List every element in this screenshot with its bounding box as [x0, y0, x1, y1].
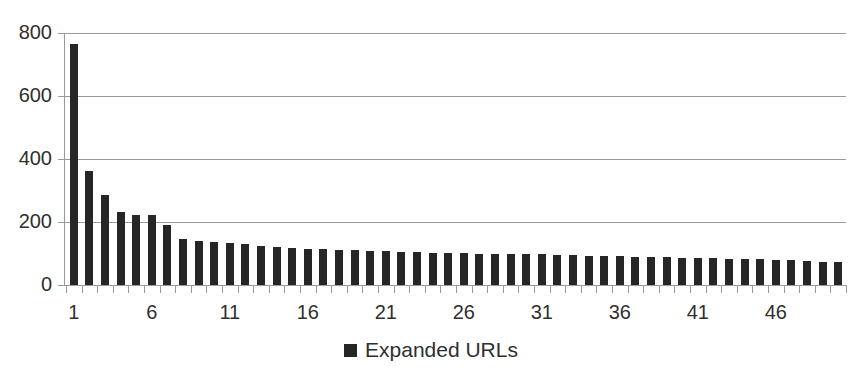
x-tick-mark — [690, 285, 691, 293]
bar — [709, 258, 717, 285]
bar — [553, 255, 561, 285]
bar — [772, 260, 780, 285]
plot-area — [66, 33, 846, 285]
bar — [273, 247, 281, 285]
x-tick-mark — [737, 285, 738, 293]
bar — [226, 243, 234, 285]
bar — [678, 258, 686, 285]
x-tick-mark — [550, 285, 551, 293]
bar — [163, 225, 171, 285]
bar — [663, 257, 671, 285]
bar — [351, 250, 359, 285]
bar — [288, 248, 296, 285]
x-tick-mark — [222, 285, 223, 293]
bar — [647, 257, 655, 285]
bar — [117, 212, 125, 285]
bar — [475, 254, 483, 286]
x-tick-mark — [347, 285, 348, 293]
y-tick-label: 600 — [0, 85, 52, 105]
y-tick-label: 0 — [0, 274, 52, 294]
y-tick-mark — [58, 96, 66, 97]
x-tick-mark — [440, 285, 441, 293]
x-tick-mark — [456, 285, 457, 293]
bar — [413, 252, 421, 285]
x-tick-mark — [768, 285, 769, 293]
x-tick-mark — [752, 285, 753, 293]
bar — [148, 215, 156, 285]
bar-chart: 0200400600800 161116212631364146 Expande… — [0, 0, 862, 376]
bar — [85, 171, 93, 285]
bar — [538, 254, 546, 285]
bar — [834, 262, 842, 285]
x-tick-mark — [503, 285, 504, 293]
x-tick-mark — [394, 285, 395, 293]
x-tick-mark — [362, 285, 363, 293]
x-tick-label: 11 — [219, 300, 240, 324]
x-tick-mark — [316, 285, 317, 293]
x-tick-mark — [175, 285, 176, 293]
bar — [460, 253, 468, 285]
bar — [257, 246, 265, 285]
bar — [70, 44, 78, 285]
x-tick-mark — [612, 285, 613, 293]
x-tick-label: 36 — [609, 300, 631, 324]
y-tick-mark — [58, 285, 66, 286]
x-tick-mark — [191, 285, 192, 293]
x-tick-label: 41 — [687, 300, 709, 324]
x-tick-mark — [596, 285, 597, 293]
x-tick-mark — [144, 285, 145, 293]
bar — [819, 262, 827, 285]
x-tick-mark — [253, 285, 254, 293]
x-tick-mark — [846, 285, 847, 293]
x-tick-mark — [97, 285, 98, 293]
x-tick-mark — [706, 285, 707, 293]
bar — [491, 254, 499, 285]
y-tick-mark — [58, 33, 66, 34]
x-tick-mark — [472, 285, 473, 293]
x-tick-mark — [206, 285, 207, 293]
y-tick-mark — [58, 159, 66, 160]
x-tick-mark — [82, 285, 83, 293]
x-tick-label: 16 — [297, 300, 319, 324]
bar — [787, 260, 795, 285]
bar — [600, 256, 608, 285]
legend-label: Expanded URLs — [365, 338, 518, 362]
x-tick-mark — [487, 285, 488, 293]
bar — [694, 258, 702, 285]
x-tick-label: 21 — [375, 300, 397, 324]
bar — [304, 249, 312, 285]
x-tick-mark — [721, 285, 722, 293]
x-tick-mark — [331, 285, 332, 293]
x-tick-mark — [66, 285, 67, 293]
bar — [756, 259, 764, 285]
x-tick-label: 1 — [68, 300, 79, 324]
legend-item: Expanded URLs — [344, 338, 518, 362]
x-tick-mark — [659, 285, 660, 293]
x-tick-mark — [409, 285, 410, 293]
x-tick-label: 46 — [765, 300, 787, 324]
bar — [741, 259, 749, 285]
x-tick-mark — [518, 285, 519, 293]
y-tick-mark — [58, 222, 66, 223]
x-tick-mark — [160, 285, 161, 293]
bar — [101, 195, 109, 285]
bar — [241, 244, 249, 285]
x-tick-mark — [284, 285, 285, 293]
bar — [319, 249, 327, 285]
bar — [444, 253, 452, 285]
bar — [725, 259, 733, 285]
x-tick-mark — [581, 285, 582, 293]
x-tick-mark — [269, 285, 270, 293]
bar — [803, 261, 811, 285]
legend-swatch-icon — [344, 344, 357, 357]
x-tick-label: 31 — [531, 300, 553, 324]
bar — [179, 239, 187, 285]
bar — [366, 251, 374, 285]
x-tick-mark — [113, 285, 114, 293]
x-tick-mark — [300, 285, 301, 293]
y-tick-label: 200 — [0, 211, 52, 231]
y-tick-label: 800 — [0, 22, 52, 42]
x-tick-mark — [425, 285, 426, 293]
bar — [382, 251, 390, 285]
x-tick-mark — [534, 285, 535, 293]
